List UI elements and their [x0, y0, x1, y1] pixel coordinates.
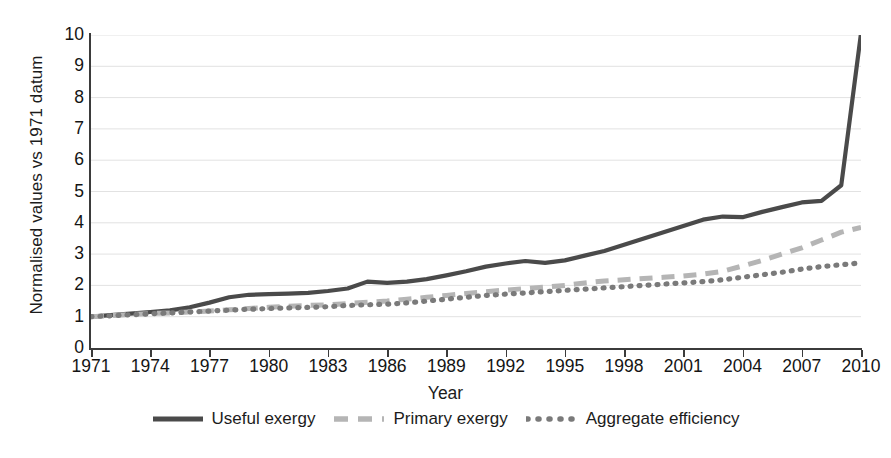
series-canvas — [91, 35, 861, 348]
y-tick-label: 8 — [44, 89, 84, 107]
legend-swatch-dotted — [526, 412, 578, 426]
y-tick-label: 0 — [44, 339, 84, 357]
x-tick-label: 2004 — [723, 358, 762, 376]
legend-label: Primary exergy — [393, 409, 507, 429]
x-tick-label: 1995 — [545, 358, 584, 376]
y-tick-label: 9 — [44, 58, 84, 76]
x-tick-label: 1974 — [131, 358, 170, 376]
y-axis-tick-labels: 012345678910 — [44, 20, 84, 356]
y-tick-label: 6 — [44, 151, 84, 169]
x-tick-label: 1983 — [308, 358, 347, 376]
x-tick-label: 2001 — [664, 358, 703, 376]
legend-swatch-dashed — [333, 412, 385, 426]
chart-legend: Useful exergyPrimary exergyAggregate eff… — [0, 409, 891, 429]
y-tick-label: 3 — [44, 245, 84, 263]
x-tick-label: 2010 — [842, 358, 881, 376]
x-tick-label: 1971 — [72, 358, 111, 376]
x-axis-title: Year — [0, 383, 891, 404]
legend-label: Aggregate efficiency — [586, 409, 740, 429]
legend-swatch-solid — [152, 412, 204, 426]
x-tick-label: 1980 — [249, 358, 288, 376]
plot-area — [91, 35, 861, 348]
x-axis-line — [89, 348, 862, 350]
y-tick-label: 7 — [44, 120, 84, 138]
y-tick-label: 2 — [44, 277, 84, 295]
y-tick-label: 10 — [44, 26, 84, 44]
x-tick-label: 1986 — [368, 358, 407, 376]
x-tick-label: 1977 — [190, 358, 229, 376]
y-tick-label: 4 — [44, 214, 84, 232]
x-tick-label: 1998 — [605, 358, 644, 376]
legend-item[interactable]: Useful exergy — [152, 409, 316, 429]
y-tick-label: 5 — [44, 183, 84, 201]
x-tick-label: 1992 — [486, 358, 525, 376]
legend-item[interactable]: Aggregate efficiency — [526, 409, 740, 429]
chart-figure: Normalised values vs 1971 datum 01234567… — [0, 0, 891, 458]
x-tick-label: 1989 — [427, 358, 466, 376]
legend-label: Useful exergy — [212, 409, 316, 429]
legend-item[interactable]: Primary exergy — [333, 409, 507, 429]
x-tick-label: 2007 — [782, 358, 821, 376]
y-tick-label: 1 — [44, 308, 84, 326]
